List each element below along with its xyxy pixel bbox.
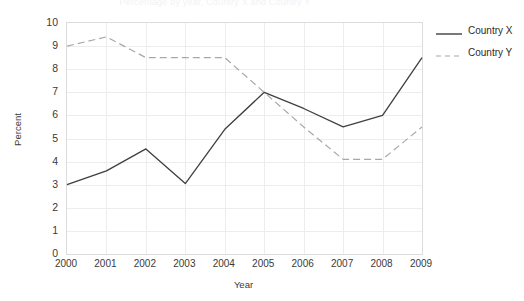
legend-item[interactable]: Country X [436, 19, 524, 41]
x-axis-title: Year [66, 279, 421, 290]
y-tick-label: 4 [18, 156, 58, 167]
y-tick-label: 2 [18, 202, 58, 213]
series-line-country-y [67, 37, 422, 159]
y-tick-label: 6 [18, 109, 58, 120]
legend-line-swatch [436, 47, 462, 57]
x-tick-label: 2009 [398, 258, 444, 269]
y-tick-label: 10 [18, 17, 58, 28]
y-tick-label: 5 [18, 133, 58, 144]
chart-title: Percentage by year, Country X and Countr… [0, 0, 430, 7]
y-tick-label: 7 [18, 86, 58, 97]
y-tick-label: 0 [18, 248, 58, 259]
chart-legend: Country XCountry Y [436, 19, 524, 63]
series-line-country-x [67, 58, 422, 185]
y-tick-label: 8 [18, 63, 58, 74]
legend-line-swatch [436, 25, 462, 35]
legend-label: Country Y [468, 47, 512, 58]
y-axis-title: Percent [12, 95, 23, 165]
series-lines [67, 23, 422, 254]
y-tick-label: 3 [18, 179, 58, 190]
plot-area [66, 22, 423, 255]
legend-label: Country X [468, 25, 512, 36]
line-chart: Percentage by year, Country X and Countr… [0, 0, 524, 301]
y-tick-label: 9 [18, 40, 58, 51]
legend-item[interactable]: Country Y [436, 41, 524, 63]
y-tick-label: 1 [18, 225, 58, 236]
